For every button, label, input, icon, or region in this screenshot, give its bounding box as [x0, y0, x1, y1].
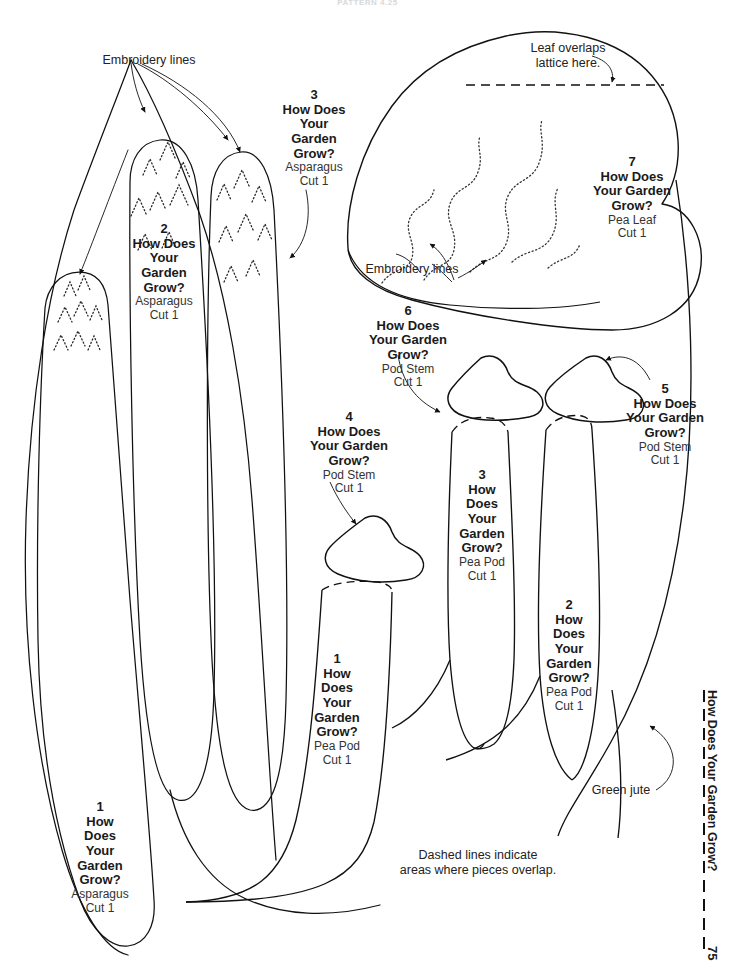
piece-cut: Cut 1 [62, 902, 138, 916]
piece-title: How Does Your Garden Grow? [258, 103, 370, 162]
piece-cut: Cut 1 [348, 376, 468, 390]
page-number: 75 [705, 946, 720, 960]
piece-label-pod-stem-4: 4 How Does Your Garden Grow? Pod Stem Cu… [288, 410, 410, 496]
pattern-page: PATTERN 4.25 [0, 0, 735, 973]
piece-label-pea-pod-3: 3 How Does Your Garden Grow? Pea Pod Cut… [447, 468, 517, 583]
piece-title: How Does Your Garden Grow? [348, 319, 468, 363]
piece-cut: Cut 1 [568, 227, 696, 241]
piece-cut: Cut 1 [447, 570, 517, 584]
piece-number: 7 [568, 155, 696, 170]
piece-label-pod-stem-5: 5 How Does Your Garden Grow? Pod Stem Cu… [604, 382, 726, 468]
pea-leaf-lower-contour [348, 250, 600, 308]
piece-part: Pod Stem [604, 441, 726, 455]
piece-number: 4 [288, 410, 410, 425]
piece-number: 5 [604, 382, 726, 397]
piece-part: Pod Stem [288, 469, 410, 483]
piece-title: How Does Your Garden Grow? [534, 613, 604, 686]
piece-title: How Does Your Garden Grow? [447, 483, 517, 556]
piece-cut: Cut 1 [288, 482, 410, 496]
pea-pod-2-tail [446, 676, 540, 760]
green-jute-contour-2 [612, 690, 621, 838]
piece-number: 3 [447, 468, 517, 483]
piece-part: Pea Pod [534, 686, 604, 700]
piece-cut: Cut 1 [604, 454, 726, 468]
piece-label-asparagus-1: 1 How Does Your Garden Grow? Asparagus C… [62, 800, 138, 915]
pea-pod-1-dashed-top [322, 581, 392, 592]
piece-title: How Does Your Garden Grow? [62, 815, 138, 888]
pod-stem-piece-4-shape [325, 516, 423, 582]
piece-number: 2 [534, 598, 604, 613]
piece-cut: Cut 1 [258, 175, 370, 189]
piece-part: Asparagus [258, 161, 370, 175]
piece-part: Pea Pod [447, 556, 517, 570]
piece-part: Pod Stem [348, 363, 468, 377]
note-green-jute: Green jute [586, 783, 656, 798]
leaf-embroidery-vines [382, 120, 580, 283]
piece-title: How Does Your Garden Grow? [568, 170, 696, 214]
piece-number: 2 [108, 222, 220, 237]
running-head-text: How Does Your Garden Grow? [705, 690, 719, 872]
piece-number: 1 [62, 800, 138, 815]
piece-title: How Does Your Garden Grow? [288, 425, 410, 469]
green-jute-contour [558, 180, 691, 836]
piece-title: How Does Your Garden Grow? [300, 667, 374, 740]
note-dashed-legend: Dashed lines indicate areas where pieces… [368, 848, 588, 879]
piece-label-asparagus-2: 2 How Does Your Garden Grow? Asparagus C… [108, 222, 220, 323]
piece-part: Asparagus [108, 295, 220, 309]
embroidery-leader-a [131, 63, 145, 112]
note-embroidery-lines-leaf: Embroidery lines [356, 262, 468, 277]
note-leaf-overlaps: Leaf overlaps lattice here. [508, 41, 628, 72]
piece-cut: Cut 1 [300, 754, 374, 768]
piece-label-asparagus-3: 3 How Does Your Garden Grow? Asparagus C… [258, 88, 370, 189]
piece-part: Asparagus [62, 888, 138, 902]
piece-cut: Cut 1 [108, 309, 220, 323]
piece-number: 6 [348, 304, 468, 319]
piece-label-pea-pod-2: 2 How Does Your Garden Grow? Pea Pod Cut… [534, 598, 604, 713]
piece-title: How Does Your Garden Grow? [108, 237, 220, 296]
embroidery-leader-b [138, 64, 228, 140]
background-spear-contour-2 [131, 60, 276, 860]
piece-number: 3 [258, 88, 370, 103]
piece-label-pod-stem-6: 6 How Does Your Garden Grow? Pod Stem Cu… [348, 304, 468, 390]
piece-cut: Cut 1 [534, 700, 604, 714]
asparagus-3-leader [290, 190, 308, 258]
piece-title: How Does Your Garden Grow? [604, 397, 726, 441]
green-jute-leader [650, 726, 673, 790]
piece-label-pea-pod-1: 1 How Does Your Garden Grow? Pea Pod Cut… [300, 652, 374, 767]
piece-part: Pea Leaf [568, 214, 696, 228]
running-head-block: How Does Your Garden Grow? 75 [703, 690, 729, 960]
pea-pod-3-tail [392, 660, 450, 728]
piece-number: 1 [300, 652, 374, 667]
piece-label-pea-leaf-7: 7 How Does Your Garden Grow? Pea Leaf Cu… [568, 155, 696, 241]
piece-part: Pea Pod [300, 740, 374, 754]
note-embroidery-lines-top: Embroidery lines [84, 53, 214, 68]
